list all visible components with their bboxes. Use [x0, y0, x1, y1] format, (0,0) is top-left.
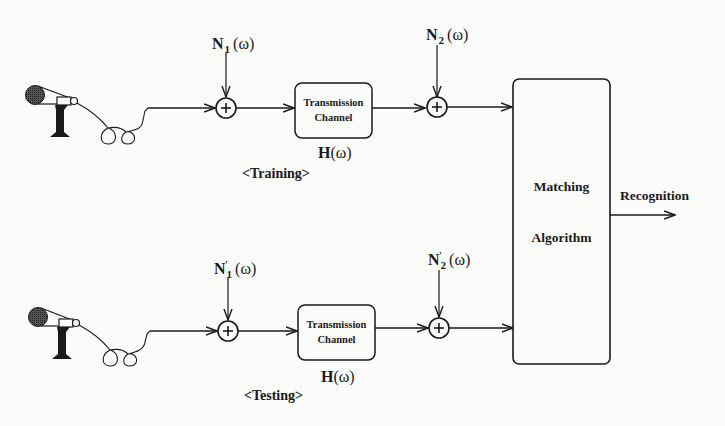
transfer-function-label-training: H(ω): [318, 145, 352, 161]
noise-label-n2: N2(ω): [426, 27, 468, 43]
microphone-icon-training: [26, 86, 78, 138]
algorithm-label: Algorithm: [513, 231, 610, 245]
mic-cable-training: [77, 103, 148, 144]
channel-label-testing: Transmission Channel: [298, 317, 375, 347]
recognition-label: Recognition: [620, 189, 689, 203]
noise-label-n1: N1(ω): [212, 36, 254, 52]
summing-junction-1-testing: [218, 321, 238, 341]
transfer-function-label-testing: H(ω): [321, 369, 355, 385]
noise-label-n2-prime: N'2(ω): [428, 252, 470, 268]
diagram-lines: [0, 0, 725, 426]
speech-recognition-block-diagram: N1(ω) Transmission Channel H(ω) <Trainin…: [0, 0, 725, 426]
summing-junction-2-training: [427, 97, 447, 117]
noise-label-n1-prime: N'1(ω): [214, 261, 256, 277]
matching-algorithm-box: [513, 79, 610, 364]
summing-junction-1-training: [216, 98, 236, 118]
mic-cable-testing: [79, 325, 150, 366]
matching-label: Matching: [513, 180, 610, 194]
summing-junction-2-testing: [429, 318, 449, 338]
phase-label-testing: <Testing>: [244, 389, 303, 403]
channel-label-training: Transmission Channel: [295, 95, 372, 125]
microphone-icon-testing: [29, 308, 80, 360]
phase-label-training: <Training>: [242, 167, 310, 181]
